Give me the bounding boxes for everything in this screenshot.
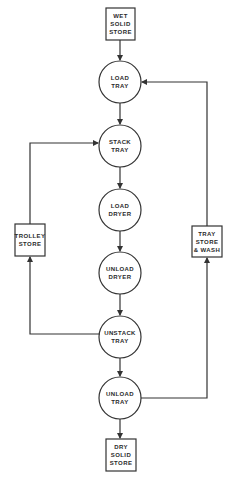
label-line: TRAY xyxy=(198,230,215,238)
label-line: STORE xyxy=(109,28,132,36)
label-line: LOAD xyxy=(111,202,130,210)
arrow-trolley-to-stack xyxy=(30,143,98,224)
unstack-tray-label: UNSTACK TRAY xyxy=(99,316,141,358)
unload-dryer-label: UNLOAD DRYER xyxy=(99,252,141,294)
label-line: & WASH xyxy=(194,246,220,254)
arrow-unstack-to-trolley xyxy=(30,257,100,334)
trolley-store-label: TROLLEY STORE xyxy=(15,224,45,256)
unload-tray-label: UNLOAD TRAY xyxy=(99,377,141,419)
label-line: DRY xyxy=(114,443,128,451)
stack-tray-label: STACK TRAY xyxy=(99,125,141,167)
label-line: UNLOAD xyxy=(106,265,134,273)
label-line: STORE xyxy=(19,240,42,248)
label-line: SOLID xyxy=(110,20,130,28)
tray-store-wash-label: TRAY STORE & WASH xyxy=(192,226,222,257)
label-line: DRYER xyxy=(109,210,132,218)
label-line: DRYER xyxy=(109,273,132,281)
label-line: TRAY xyxy=(111,82,128,90)
label-line: LOAD xyxy=(111,74,130,82)
label-line: UNLOAD xyxy=(106,390,134,398)
dry-solid-store-label: DRY SOLID STORE xyxy=(106,439,136,471)
load-dryer-label: LOAD DRYER xyxy=(99,189,141,231)
label-line: TRAY xyxy=(111,337,128,345)
load-tray-label: LOAD TRAY xyxy=(99,61,141,103)
label-line: SOLID xyxy=(111,451,131,459)
label-line: UNSTACK xyxy=(104,329,136,337)
label-line: TRAY xyxy=(111,146,128,154)
arrow-unloadtray-to-traystore xyxy=(141,258,207,398)
arrow-traystore-to-loadtray xyxy=(142,82,207,226)
label-line: STACK xyxy=(109,138,131,146)
label-line: WET xyxy=(113,12,128,20)
label-line: TRAY xyxy=(111,398,128,406)
label-line: TROLLEY xyxy=(15,232,46,240)
label-line: STORE xyxy=(110,459,133,467)
label-line: STORE xyxy=(196,238,219,246)
wet-solid-store-label: WET SOLID STORE xyxy=(106,8,135,40)
